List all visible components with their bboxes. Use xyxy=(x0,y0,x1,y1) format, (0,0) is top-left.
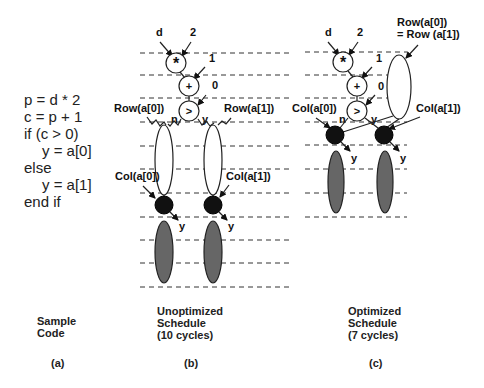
col-a1-label: Col(a[1]) xyxy=(226,170,271,182)
code-line-3: if (c > 0) xyxy=(24,125,79,142)
input-0: 0 xyxy=(212,79,218,91)
caption-a-line1: Sample xyxy=(37,315,76,327)
opt-input-1: 1 xyxy=(376,52,382,64)
caption-a-line2: Code xyxy=(37,327,65,339)
caption-c-line2: Schedule xyxy=(348,317,397,329)
data-transfer-a1 xyxy=(204,221,222,283)
data-transfer-a0 xyxy=(155,221,173,283)
col-a0-label: Col(a[0]) xyxy=(115,170,160,182)
row-a0-label: Row(a[0]) xyxy=(114,102,164,114)
row-a1-label: Row(a[1]) xyxy=(224,102,274,114)
row-a0-access xyxy=(155,125,173,195)
caption-b-line3: (10 cycles) xyxy=(157,329,214,341)
opt-col-a0-access xyxy=(326,126,344,144)
opt-compare-symbol: > xyxy=(354,105,360,117)
opt-input-0: 0 xyxy=(378,80,384,92)
code-line-2: c = p + 1 xyxy=(24,108,82,125)
code-line-4: y = a[0] xyxy=(42,142,92,159)
input-2: 2 xyxy=(190,26,196,38)
input-1: 1 xyxy=(209,52,215,64)
opt-multiply-symbol: * xyxy=(340,54,347,71)
caption-c-line3: (7 cycles) xyxy=(348,329,398,341)
add-symbol: + xyxy=(186,80,192,92)
output-y-0: y xyxy=(179,220,186,232)
shared-row-label-1: Row(a[0]) xyxy=(397,16,447,28)
code-line-1: p = d * 2 xyxy=(24,91,80,108)
input-d: d xyxy=(156,26,163,38)
opt-input-2: 2 xyxy=(357,26,363,38)
multiply-symbol: * xyxy=(173,55,180,72)
caption-c-line1: Optimized xyxy=(348,305,401,317)
row-a1-access xyxy=(204,125,222,195)
output-y-1: y xyxy=(228,220,235,232)
panel-label-b: (b) xyxy=(184,357,198,369)
sample-code: p = d * 2 c = p + 1 if (c > 0) y = a[0] … xyxy=(24,91,92,210)
opt-col-a0-label: Col(a[0]) xyxy=(292,102,337,114)
compare-symbol: > xyxy=(186,105,192,117)
opt-col-a1-label: Col(a[1]) xyxy=(416,102,461,114)
code-line-7: end if xyxy=(24,193,62,210)
code-line-6: y = a[1] xyxy=(42,176,92,193)
opt-data-transfer-a1 xyxy=(377,151,393,213)
opt-col-a1-access xyxy=(375,126,393,144)
col-a1-access xyxy=(204,196,222,214)
opt-output-y-1: y xyxy=(400,152,407,164)
schedule-diagram: p = d * 2 c = p + 1 if (c > 0) y = a[0] … xyxy=(0,0,484,388)
opt-input-d: d xyxy=(325,26,332,38)
unoptimized-graph: d 2 * 1 + 0 > n y Row(a[0]) Row(a[1]) xyxy=(114,26,274,283)
panel-label-a: (a) xyxy=(51,357,65,369)
shared-row-access xyxy=(387,55,411,119)
code-line-5: else xyxy=(24,159,52,176)
optimized-graph: d 2 * 1 + 0 > n y Row(a[0]) = Row (a[1])… xyxy=(292,16,461,213)
shared-row-label-2: = Row (a[1]) xyxy=(397,28,460,40)
col-a0-access xyxy=(155,196,173,214)
panel-label-c: (c) xyxy=(369,357,383,369)
opt-add-symbol: + xyxy=(354,80,360,92)
caption-b-line1: Unoptimized xyxy=(157,305,223,317)
caption-b-line2: Schedule xyxy=(157,317,206,329)
opt-branch-n: n xyxy=(339,113,346,125)
opt-output-y-0: y xyxy=(351,152,358,164)
opt-data-transfer-a0 xyxy=(328,151,344,213)
